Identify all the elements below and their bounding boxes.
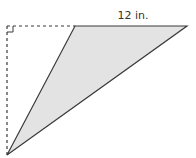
base-length-label: 12 in. bbox=[117, 9, 148, 22]
right-angle-marker bbox=[7, 26, 13, 32]
triangle-diagram: 12 in. bbox=[0, 0, 196, 158]
shaded-triangle bbox=[7, 26, 187, 155]
